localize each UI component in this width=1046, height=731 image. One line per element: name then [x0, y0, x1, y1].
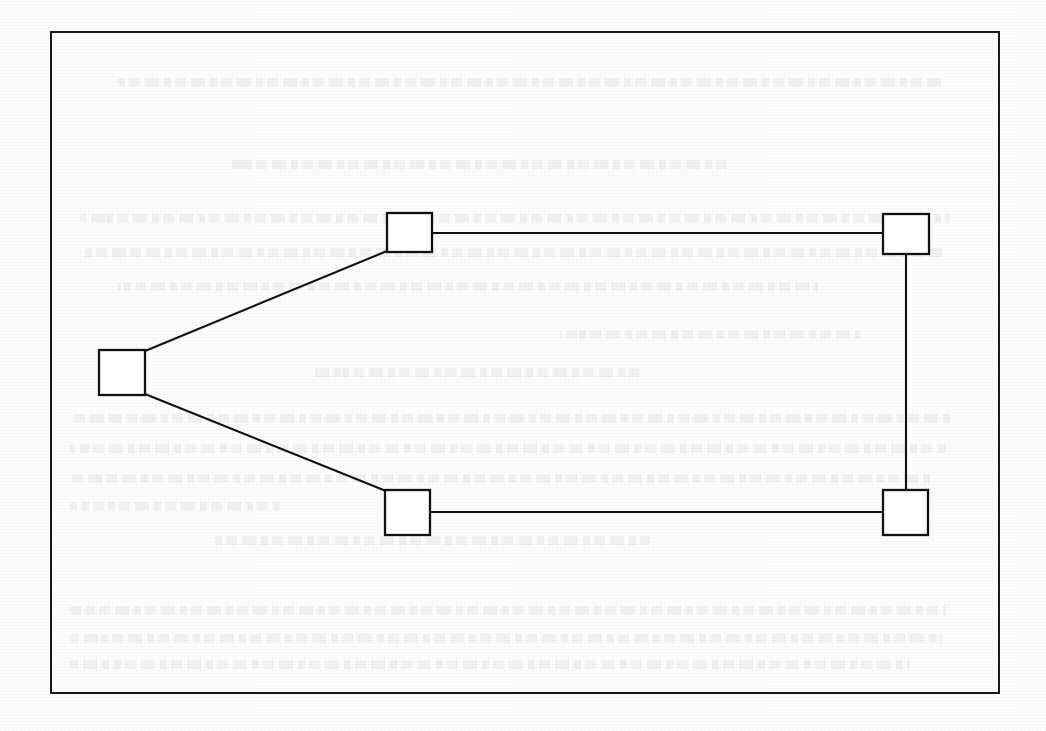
scanned-page [0, 0, 1046, 731]
figure-border [50, 31, 1000, 694]
